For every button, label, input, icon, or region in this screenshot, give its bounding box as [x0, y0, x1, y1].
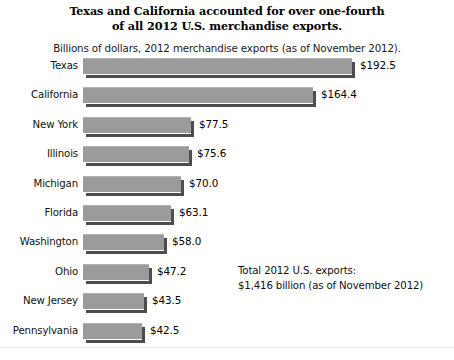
bar-value-label: $43.5	[152, 291, 181, 310]
bar-row: Michigan$70.0	[0, 174, 454, 203]
category-label: New Jersey	[0, 291, 78, 310]
bar	[83, 205, 171, 224]
bar-row: Florida$63.1	[0, 203, 454, 232]
bar	[83, 293, 144, 312]
bar-value-label: $42.5	[150, 321, 179, 340]
bar	[83, 234, 164, 253]
bar-value-label: $47.2	[157, 262, 186, 281]
annotation-line-1: Total 2012 U.S. exports:	[238, 264, 423, 279]
bar-row: Washington$58.0	[0, 232, 454, 261]
bar-row: Texas$192.5	[0, 56, 454, 85]
annotation-line-2: $1,416 billion (as of November 2012)	[238, 279, 423, 294]
bar-value-label: $58.0	[172, 232, 201, 251]
plot-area: Texas$192.5California$164.4New York$77.5…	[0, 56, 454, 336]
category-label: Florida	[0, 203, 78, 222]
bar	[83, 264, 149, 283]
bar-value-label: $77.5	[199, 115, 228, 134]
bar-row: Illinois$75.6	[0, 144, 454, 173]
chart-title-line-1: Texas and California accounted for over …	[69, 4, 384, 18]
bar-value-label: $164.4	[321, 85, 357, 104]
bar	[83, 87, 313, 106]
bar	[83, 146, 189, 165]
bar-value-label: $75.6	[197, 144, 226, 163]
bar-fill	[83, 117, 191, 133]
export-bar-chart: Texas and California accounted for over …	[0, 0, 454, 360]
chart-title-line-2: of all 2012 U.S. merchandise exports.	[52, 19, 402, 34]
category-label: California	[0, 85, 78, 104]
bar	[83, 58, 352, 77]
category-label: Texas	[0, 56, 78, 75]
category-label: Ohio	[0, 262, 78, 281]
category-label: Illinois	[0, 144, 78, 163]
bar-fill	[83, 323, 142, 339]
bar-row: New York$77.5	[0, 115, 454, 144]
title-block: Texas and California accounted for over …	[0, 0, 454, 55]
category-label: Michigan	[0, 174, 78, 193]
bar	[83, 323, 142, 342]
total-exports-annotation: Total 2012 U.S. exports: $1,416 billion …	[238, 264, 423, 293]
bar-fill	[83, 264, 149, 280]
bar-fill	[83, 293, 144, 309]
bar-fill	[83, 58, 352, 74]
bottom-divider	[0, 347, 454, 348]
bar-value-label: $70.0	[189, 174, 218, 193]
bar-value-label: $192.5	[360, 56, 396, 75]
chart-subtitle: Billions of dollars, 2012 merchandise ex…	[0, 42, 454, 55]
category-label: New York	[0, 115, 78, 134]
bar-fill	[83, 87, 313, 103]
chart-title: Texas and California accounted for over …	[52, 4, 402, 34]
bar-row: New Jersey$43.5	[0, 291, 454, 320]
bar-row: California$164.4	[0, 85, 454, 114]
bar-value-label: $63.1	[179, 203, 208, 222]
category-label: Pennsylvania	[0, 321, 78, 340]
bar	[83, 117, 191, 136]
bar-fill	[83, 146, 189, 162]
category-label: Washington	[0, 232, 78, 251]
bar-fill	[83, 205, 171, 221]
bar	[83, 176, 181, 195]
bar-row: Pennsylvania$42.5	[0, 321, 454, 350]
bar-fill	[83, 234, 164, 250]
bar-fill	[83, 176, 181, 192]
